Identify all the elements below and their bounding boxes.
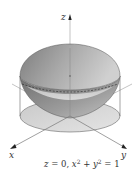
caption-eq1: = 0,	[48, 159, 71, 169]
caption-plus: +	[80, 159, 93, 169]
caption-eq2: = 1	[102, 159, 120, 169]
z-axis-label: z	[60, 12, 66, 22]
z-axis-tick	[69, 75, 71, 77]
y-axis-label: y	[120, 150, 127, 160]
z-axis	[68, 14, 71, 48]
x-axis-label: x	[9, 150, 14, 160]
surface-diagram: z x y z = 0, x2 + y2 = 1	[0, 0, 139, 175]
caption: z = 0, x2 + y2 = 1	[43, 158, 120, 169]
